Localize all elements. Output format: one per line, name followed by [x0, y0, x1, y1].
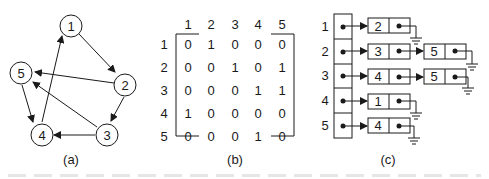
matrix-cell: 0 [278, 37, 285, 52]
matrix-cell: 0 [231, 37, 238, 52]
row-header: 3 [160, 83, 167, 98]
edge-2-3 [111, 97, 124, 121]
list-node-value: 2 [374, 19, 381, 34]
list-row-label: 1 [321, 19, 328, 34]
faint-bottom-strip [8, 174, 481, 177]
matrix-cell: 0 [207, 129, 214, 144]
matrix-cell: 0 [207, 83, 214, 98]
list-row-label: 3 [321, 68, 328, 83]
col-header: 1 [184, 17, 191, 32]
matrix-cell: 0 [254, 106, 261, 121]
row-header: 2 [160, 60, 167, 75]
caption-a: (a) [63, 152, 79, 167]
row-header: 1 [160, 37, 167, 52]
list-node-value: 5 [430, 69, 437, 84]
matrix-cell: 1 [278, 83, 285, 98]
matrix-cell: 1 [231, 60, 238, 75]
node-label-5: 5 [17, 66, 24, 81]
node-label-2: 2 [121, 78, 128, 93]
matrix-column-headers: 1 2 3 4 5 [184, 17, 285, 32]
matrix-cell: 1 [254, 129, 261, 144]
caption-b: (b) [227, 152, 243, 167]
col-header: 4 [254, 17, 261, 32]
matrix-cell: 0 [184, 37, 191, 52]
adjacency-list-panel: 1 2 3 4 5 [321, 14, 478, 167]
matrix-cell: 0 [207, 106, 214, 121]
matrix-cell: 0 [184, 60, 191, 75]
graph-panel [10, 15, 136, 146]
list-node-value: 5 [430, 44, 437, 59]
edge-2-5 [35, 72, 114, 83]
list-node-value: 3 [374, 44, 381, 59]
col-header: 5 [278, 17, 285, 32]
matrix-cell: 1 [254, 83, 261, 98]
list-node-value: 4 [374, 118, 381, 133]
matrix-cell: 0 [231, 106, 238, 121]
list-row-label: 4 [321, 93, 328, 108]
node-label-4: 4 [38, 128, 45, 143]
node-label-3: 3 [103, 128, 110, 143]
matrix-cell: 0 [254, 60, 261, 75]
matrix-row-headers: 1 2 3 4 5 [160, 37, 167, 144]
edge-4-1 [42, 36, 62, 122]
matrix-cell: 1 [207, 37, 214, 52]
matrix-cell: 0 [231, 129, 238, 144]
col-header: 3 [231, 17, 238, 32]
edge-5-4 [22, 85, 33, 122]
list-row-label: 2 [321, 44, 328, 59]
matrix-cell: 1 [184, 106, 191, 121]
edge-1-2 [79, 34, 115, 72]
figure-canvas: 1 2 3 4 5 (a) 1 2 3 4 5 1 2 3 4 5 0 1 0 … [0, 0, 489, 179]
adjacency-matrix-panel: 1 2 3 4 5 1 2 3 4 5 0 1 0 0 0 0 0 1 0 1 … [160, 17, 294, 167]
col-header: 2 [207, 17, 214, 32]
matrix-cell: 0 [207, 60, 214, 75]
caption-c: (c) [380, 152, 395, 167]
list-row-labels: 1 2 3 4 5 [321, 19, 328, 133]
list-node-value: 1 [374, 94, 381, 109]
row-header: 5 [160, 129, 167, 144]
matrix-cell: 0 [231, 83, 238, 98]
matrix-cell: 0 [254, 37, 261, 52]
row-header: 4 [160, 106, 167, 121]
matrix-cell: 1 [278, 60, 285, 75]
list-row-label: 5 [321, 118, 328, 133]
matrix-cells: 0 1 0 0 0 0 0 1 0 1 0 0 0 1 1 1 0 0 0 0 … [184, 37, 285, 144]
matrix-cell: 0 [278, 106, 285, 121]
list-node-value: 4 [374, 69, 381, 84]
node-label-1: 1 [67, 19, 74, 34]
matrix-cell: 0 [184, 83, 191, 98]
